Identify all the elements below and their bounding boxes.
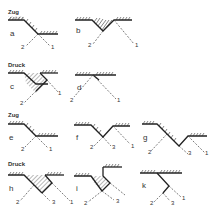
figure-a: a 2 1 xyxy=(8,17,58,50)
figure-label-e: e xyxy=(9,133,14,142)
figure-h: h 2 3 1 xyxy=(8,172,74,205)
figure-label-c: c xyxy=(10,82,14,91)
svg-text:1: 1 xyxy=(182,195,186,201)
figure-i: i 2 3 xyxy=(74,164,125,206)
figure-label-f: f xyxy=(76,133,79,142)
svg-text:2: 2 xyxy=(150,200,154,206)
svg-text:1: 1 xyxy=(70,199,74,205)
diagram-canvas: Zug a 2 1 b 2 1 Druck xyxy=(0,0,213,211)
svg-text:2: 2 xyxy=(148,149,152,155)
svg-text:3: 3 xyxy=(112,144,116,150)
svg-text:2: 2 xyxy=(21,44,25,50)
figure-d: d 2 1 xyxy=(70,72,121,103)
svg-text:2: 2 xyxy=(21,146,25,152)
svg-text:1: 1 xyxy=(51,44,55,50)
svg-text:1: 1 xyxy=(49,146,53,152)
svg-text:3: 3 xyxy=(52,199,56,205)
svg-text:3: 3 xyxy=(116,198,120,204)
figure-label-i: i xyxy=(76,184,78,193)
section-label-zug-1: Zug xyxy=(8,9,19,15)
svg-text:2: 2 xyxy=(70,97,74,103)
svg-text:3: 3 xyxy=(171,200,175,206)
svg-text:2: 2 xyxy=(84,200,88,206)
figure-b: b 2 1 xyxy=(75,17,139,48)
svg-text:1: 1 xyxy=(205,150,209,156)
svg-text:2: 2 xyxy=(90,144,94,150)
svg-text:2: 2 xyxy=(16,199,20,205)
svg-text:2: 2 xyxy=(88,42,92,48)
figure-k: k 2 3 1 xyxy=(140,170,186,206)
figure-label-d: d xyxy=(77,83,81,92)
section-label-druck-2: Druck xyxy=(8,62,26,68)
figure-label-h: h xyxy=(9,184,13,193)
svg-text:3: 3 xyxy=(188,150,192,156)
section-label-zug-3: Zug xyxy=(8,112,19,118)
figure-label-k: k xyxy=(142,181,147,190)
figure-label-a: a xyxy=(10,29,15,38)
figure-e: e 2 1 xyxy=(8,121,58,152)
svg-text:1: 1 xyxy=(131,143,135,149)
figure-f: f 2 3 1 xyxy=(74,122,135,150)
figure-label-g: g xyxy=(143,133,147,142)
svg-text:1: 1 xyxy=(135,42,139,48)
svg-text:1: 1 xyxy=(117,97,121,103)
figure-label-b: b xyxy=(76,26,81,35)
svg-text:2: 2 xyxy=(20,100,24,106)
section-label-druck-4: Druck xyxy=(8,161,26,167)
figure-c: c 2 1 xyxy=(8,70,62,106)
figure-g: g 2 3 1 xyxy=(142,121,209,156)
svg-text:1: 1 xyxy=(58,90,62,96)
